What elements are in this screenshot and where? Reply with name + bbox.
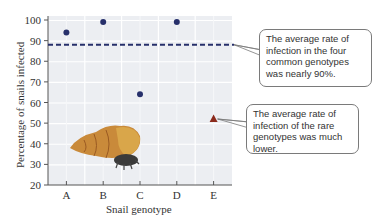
y-tick-label: 50	[30, 117, 42, 129]
data-point-circle	[137, 91, 143, 97]
x-tick-label: D	[173, 189, 181, 201]
x-tick-label: E	[210, 189, 217, 201]
y-tick-label: 60	[30, 97, 42, 109]
callout-common-genotypes: The average rate of infection in the fou…	[259, 29, 372, 87]
x-tick-label: B	[100, 189, 107, 201]
y-tick-label: 100	[25, 14, 42, 26]
x-tick-label: A	[62, 189, 70, 201]
x-axis-label: Snail genotype	[106, 203, 172, 215]
callout-pointer-common	[234, 45, 262, 56]
y-axis-label: Percentage of snails infected	[14, 42, 26, 168]
data-point-circle	[63, 29, 69, 35]
x-tick-label: C	[136, 189, 143, 201]
callout-rare-genotypes: The average rate of infection of the rar…	[246, 104, 359, 154]
y-tick-label: 80	[30, 55, 42, 67]
y-tick-label: 90	[30, 35, 42, 47]
y-tick-label: 30	[30, 158, 42, 170]
y-tick-label: 70	[30, 76, 42, 88]
data-point-circle	[100, 19, 106, 25]
y-tick-label: 20	[30, 179, 42, 191]
y-tick-label: 40	[30, 138, 42, 150]
data-point-circle	[174, 19, 180, 25]
